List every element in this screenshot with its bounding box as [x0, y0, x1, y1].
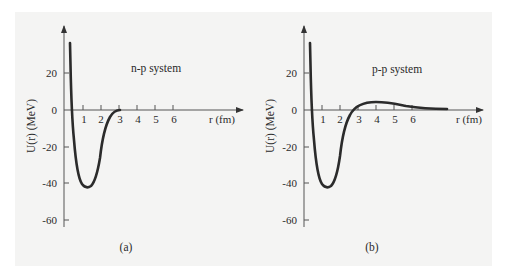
svg-text:-40: -40	[42, 177, 57, 189]
svg-text:6: 6	[410, 113, 416, 125]
svg-text:1: 1	[320, 113, 326, 125]
caption-b: (b)	[365, 241, 379, 254]
svg-text:4: 4	[374, 113, 380, 125]
system-label-b: p-p system	[372, 63, 422, 76]
svg-text:20: 20	[286, 67, 298, 79]
x-axis-label-a: r (fm)	[209, 113, 235, 126]
svg-text:0: 0	[52, 104, 58, 116]
svg-text:2: 2	[98, 113, 104, 125]
caption-a: (a)	[120, 241, 133, 254]
svg-text:1: 1	[81, 113, 87, 125]
svg-text:4: 4	[135, 113, 141, 125]
x-ticks-a	[83, 105, 173, 110]
y-tick-labels-a: 20 0 -20 -40 -60	[42, 67, 57, 226]
chart-b: 20 0 -20 -40 -60 1 2 3 4 5 6 r (fm) U(r)…	[264, 26, 483, 254]
svg-text:2: 2	[337, 113, 343, 125]
system-label-a: n-p system	[131, 62, 181, 75]
chart-a: 20 0 -20 -40 -60 1 2 3 4 5 6 r (fm) U(r)…	[25, 26, 243, 254]
svg-text:-60: -60	[42, 214, 57, 226]
svg-text:-20: -20	[282, 141, 297, 153]
y-axis-label-a: U(r) (MeV)	[25, 99, 38, 153]
svg-text:-60: -60	[282, 214, 297, 226]
svg-text:0: 0	[292, 104, 298, 116]
svg-text:-40: -40	[282, 177, 297, 189]
x-axis-label-b: r (fm)	[456, 113, 482, 126]
svg-text:3: 3	[356, 113, 362, 125]
svg-text:5: 5	[153, 113, 159, 125]
x-tick-labels-b: 1 2 3 4 5 6	[320, 113, 416, 125]
y-ticks-a	[64, 73, 69, 220]
svg-text:5: 5	[392, 113, 398, 125]
svg-text:-20: -20	[42, 141, 57, 153]
x-tick-labels-a: 1 2 3 4 5 6	[81, 113, 177, 125]
potential-curve-a	[70, 43, 120, 187]
y-axis-label-b: U(r) (MeV)	[264, 99, 277, 153]
figure: 20 0 -20 -40 -60 1 2 3 4 5 6 r (fm) U(r)…	[0, 0, 506, 278]
y-ticks-b	[304, 73, 309, 220]
svg-text:3: 3	[117, 113, 123, 125]
svg-text:20: 20	[46, 67, 58, 79]
svg-text:6: 6	[171, 113, 177, 125]
y-tick-labels-b: 20 0 -20 -40 -60	[282, 67, 297, 226]
